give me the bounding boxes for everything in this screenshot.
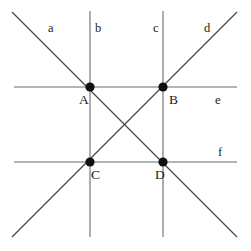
line-label-e: e (215, 94, 221, 107)
line-label-a: a (48, 22, 54, 35)
line-label-b: b (95, 22, 101, 35)
line-label-f: f (218, 146, 222, 159)
lines-group (12, 11, 237, 237)
point-label-d: D (155, 168, 165, 182)
vertex-point-b (158, 82, 167, 91)
vertex-point-a (85, 82, 94, 91)
points-group (85, 82, 167, 166)
figure-canvas (0, 0, 251, 251)
vertex-point-c (85, 157, 94, 166)
vertex-point-d (158, 157, 167, 166)
line-label-c: c (153, 22, 159, 35)
geometry-figure: abcdefABCD (0, 0, 251, 251)
point-label-a: A (79, 93, 89, 107)
line-label-d: d (204, 22, 210, 35)
point-label-c: C (91, 168, 100, 182)
point-label-b: B (169, 93, 178, 107)
